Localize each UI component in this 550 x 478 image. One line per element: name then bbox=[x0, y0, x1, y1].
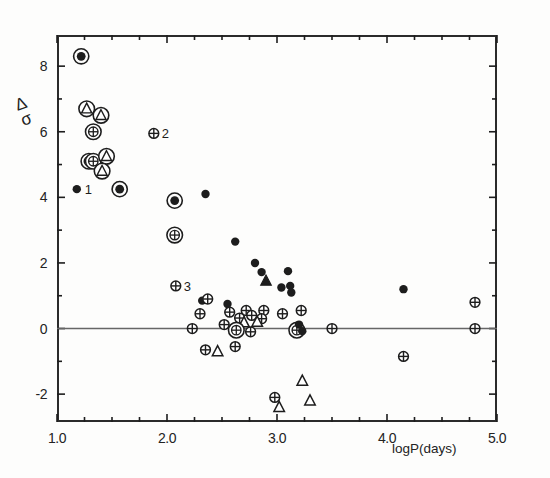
figure-root: Δ σ logP(days) 1.02.03.04.05.0-202468123 bbox=[0, 0, 550, 478]
data-point-crossed-circle bbox=[470, 297, 480, 307]
data-point-circled-crossed-circle bbox=[86, 124, 102, 140]
data-point-open-triangle bbox=[212, 346, 223, 356]
data-point-filled-dot bbox=[231, 237, 239, 245]
x-axis-title: logP(days) bbox=[392, 441, 457, 456]
y-axis-title: Δ σ bbox=[18, 96, 29, 127]
data-point-crossed-circle bbox=[230, 342, 240, 352]
data-point-crossed-circle bbox=[201, 345, 211, 355]
data-point-crossed-circle bbox=[203, 294, 213, 304]
x-tick-label: 3.0 bbox=[268, 430, 286, 446]
y-tick-label: 4 bbox=[40, 189, 47, 205]
data-point-circled-crossed-circle bbox=[229, 322, 245, 338]
data-point-circled-triangle bbox=[99, 149, 115, 165]
data-point-crossed-circle bbox=[296, 306, 306, 316]
data-point-crossed-circle bbox=[171, 281, 181, 291]
x-tick-label: 4.0 bbox=[378, 430, 396, 446]
data-point-filled-dot bbox=[298, 327, 306, 335]
data-point-filled-dot bbox=[284, 267, 292, 275]
data-point-circled-dot bbox=[112, 182, 127, 197]
data-point-filled-dot bbox=[257, 268, 265, 276]
y-tick-label: 6 bbox=[40, 124, 47, 140]
plot-canvas bbox=[0, 0, 550, 478]
data-point-crossed-circle bbox=[187, 324, 197, 334]
data-point-crossed-circle bbox=[278, 309, 288, 319]
data-point-circled-dot bbox=[74, 49, 89, 64]
point-annotation: 3 bbox=[184, 278, 191, 293]
x-tick-label: 1.0 bbox=[48, 430, 66, 446]
data-point-crossed-circle bbox=[195, 309, 205, 319]
x-tick-label: 5.0 bbox=[488, 430, 506, 446]
y-tick-label: 8 bbox=[40, 58, 47, 74]
y-tick-label: 2 bbox=[40, 255, 47, 271]
data-point-filled-triangle bbox=[261, 275, 272, 285]
data-point-filled-dot bbox=[399, 285, 407, 293]
x-tick-label: 2.0 bbox=[158, 430, 176, 446]
point-annotation: 1 bbox=[85, 182, 92, 197]
point-annotation: 2 bbox=[162, 126, 169, 141]
data-point-filled-dot bbox=[251, 259, 259, 267]
data-point-filled-dot bbox=[73, 185, 81, 193]
data-point-crossed-circle bbox=[219, 320, 229, 330]
y-tick-label: 0 bbox=[40, 321, 47, 337]
data-point-crossed-circle bbox=[246, 327, 256, 337]
data-point-crossed-circle bbox=[399, 352, 409, 362]
scatter-svg bbox=[0, 0, 550, 478]
data-point-circled-triangle bbox=[93, 108, 109, 124]
data-point-open-triangle bbox=[305, 395, 316, 405]
data-point-filled-dot bbox=[287, 288, 295, 296]
data-point-crossed-circle bbox=[225, 307, 235, 317]
data-point-circled-crossed-circle bbox=[167, 227, 183, 243]
data-point-filled-dot bbox=[201, 190, 209, 198]
data-point-crossed-circle bbox=[270, 393, 280, 403]
y-tick-label: -2 bbox=[36, 386, 47, 402]
data-point-crossed-circle bbox=[470, 324, 480, 334]
data-point-crossed-circle bbox=[149, 128, 159, 138]
data-point-circled-triangle bbox=[94, 163, 110, 179]
data-point-open-triangle bbox=[297, 375, 308, 385]
data-point-crossed-circle bbox=[327, 324, 337, 334]
data-point-circled-dot bbox=[167, 193, 182, 208]
data-point-circled-triangle bbox=[79, 101, 95, 117]
data-point-filled-dot bbox=[277, 283, 285, 291]
